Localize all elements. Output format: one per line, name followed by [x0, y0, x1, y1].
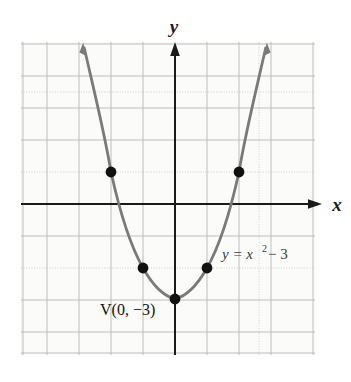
point-vertex [170, 294, 181, 305]
parabola-graph-svg: y x y = x 2 − 3 V(0, −3) [0, 0, 351, 382]
equation-tail: − 3 [268, 246, 288, 262]
graph-figure: y x y = x 2 − 3 V(0, −3) [0, 0, 351, 382]
point-2-1 [234, 167, 245, 178]
equation-exponent: 2 [262, 243, 267, 254]
y-axis-label: y [168, 16, 179, 37]
vertex-label: V(0, −3) [100, 301, 155, 319]
equation-main: y = x [220, 246, 253, 262]
point-minus2-1 [106, 167, 117, 178]
x-axis-label: x [331, 194, 342, 215]
point-1-minus2 [202, 263, 213, 274]
point-minus1-minus2 [138, 263, 149, 274]
